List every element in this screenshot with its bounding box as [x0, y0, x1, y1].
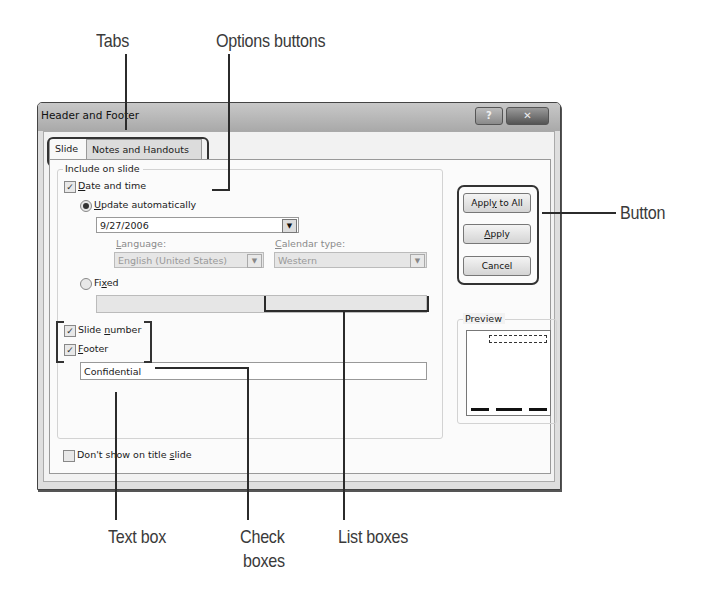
include-legend: Include on slide	[63, 163, 143, 174]
preview-legend: Preview	[463, 313, 505, 324]
date-format-listbox[interactable]: 9/27/2006 ▼	[96, 217, 299, 233]
slide-number-label: Slide number	[78, 324, 141, 335]
tab-notes-handouts[interactable]: Notes and Handouts	[86, 139, 202, 159]
preview-footer-text	[496, 408, 522, 411]
calendar-type-label: Calendar type:	[275, 238, 345, 249]
check-icon: ✓	[66, 326, 74, 336]
footer-checkbox[interactable]: ✓	[64, 344, 76, 356]
callout-check-boxes-1: Check	[240, 526, 285, 548]
help-button[interactable]: ?	[475, 107, 503, 125]
checkbox-bracket-right	[144, 321, 152, 363]
slide-number-checkbox[interactable]: ✓	[64, 325, 76, 337]
checkbox-bracket-left	[56, 321, 64, 363]
language-value: English (United States)	[118, 255, 227, 266]
preview-group: Preview	[457, 319, 557, 424]
close-button[interactable]: ✕	[506, 107, 549, 125]
callout-list-boxes: List boxes	[338, 526, 408, 548]
dialog-client-area: Slide Notes and Handouts Include on slid…	[43, 131, 555, 482]
update-automatically-radio[interactable]	[80, 200, 92, 212]
callout-line-list-v	[343, 310, 345, 520]
preview-footer-date	[471, 408, 489, 411]
callout-line-tabs	[125, 54, 127, 130]
callout-tabs: Tabs	[96, 30, 129, 52]
chevron-down-icon[interactable]: ▼	[410, 254, 425, 268]
callout-line-check-v	[247, 367, 249, 520]
preview-footer-number	[529, 408, 547, 411]
callout-text-box: Text box	[108, 526, 166, 548]
apply-to-all-button[interactable]: Apply to All	[463, 193, 531, 213]
callout-options-buttons: Options buttons	[216, 30, 325, 52]
callout-check-boxes-2: boxes	[243, 550, 285, 572]
apply-button[interactable]: Apply	[463, 224, 531, 244]
close-icon: ✕	[523, 110, 531, 121]
fixed-radio[interactable]	[80, 278, 92, 290]
check-icon: ✓	[66, 182, 74, 192]
date-time-label: Date and time	[78, 180, 146, 191]
callout-line-list-h	[264, 310, 429, 312]
calendar-type-value: Western	[278, 255, 317, 266]
tab-slide-label: Slide	[55, 143, 78, 154]
callout-line-options-h	[212, 189, 230, 191]
dont-show-title-label: Don't show on title slide	[77, 449, 192, 460]
language-listbox[interactable]: English (United States) ▼	[114, 252, 264, 268]
check-icon: ✓	[66, 345, 74, 355]
callout-line-button	[542, 212, 616, 214]
cancel-button[interactable]: Cancel	[463, 256, 531, 276]
tab-slide[interactable]: Slide	[49, 138, 87, 159]
help-icon: ?	[486, 110, 492, 121]
chevron-down-icon[interactable]: ▼	[247, 254, 262, 268]
callout-line-options-v	[228, 54, 230, 191]
fixed-label: Fixed	[94, 277, 119, 288]
date-value: 9/27/2006	[100, 220, 149, 231]
chevron-down-icon[interactable]: ▼	[282, 219, 297, 233]
footer-text-input[interactable]: Confidential	[80, 362, 427, 380]
footer-value: Confidential	[84, 366, 141, 377]
dont-show-title-checkbox[interactable]	[63, 450, 75, 462]
callout-line-text-box	[115, 392, 117, 520]
callout-line-check-h	[155, 367, 249, 369]
date-time-checkbox[interactable]: ✓	[64, 181, 76, 193]
preview-header-placeholder	[489, 335, 547, 343]
update-automatically-label: Update automatically	[94, 199, 196, 210]
calendar-type-listbox[interactable]: Western ▼	[274, 252, 427, 268]
callout-button: Button	[620, 202, 665, 224]
title-bar[interactable]: Header and Footer ? ✕	[38, 103, 560, 131]
language-label: Language:	[116, 238, 166, 249]
footer-label: Footer	[78, 343, 108, 354]
preview-slide-thumbnail	[466, 330, 551, 416]
tab-notes-label: Notes and Handouts	[92, 144, 189, 155]
